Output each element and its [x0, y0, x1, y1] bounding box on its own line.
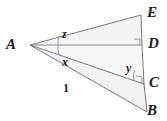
vertex-label-B: B — [147, 103, 157, 118]
diagram-canvas — [0, 0, 167, 121]
vertex-label-A: A — [6, 37, 16, 52]
vertex-label-E: E — [147, 5, 157, 20]
vertex-label-D: D — [148, 36, 159, 51]
geometry-diagram: A E D C B z x y 1 — [0, 0, 167, 121]
vertex-label-C: C — [149, 75, 159, 90]
angle-label-y: y — [126, 62, 131, 74]
angle-label-x: x — [62, 56, 68, 68]
segment-label-AB-length: 1 — [63, 82, 69, 94]
angle-label-z: z — [62, 28, 67, 40]
